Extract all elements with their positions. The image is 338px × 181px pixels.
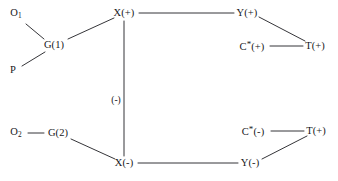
node-xminus: X(-) — [115, 158, 133, 169]
node-tplus1: T(+) — [305, 41, 325, 52]
node-p: P — [10, 65, 16, 76]
node-cminus: C*(-) — [242, 125, 265, 137]
node-sign: (+) — [312, 40, 325, 51]
edge-layer — [0, 0, 338, 181]
node-base: X — [114, 7, 122, 18]
node-base: O — [10, 7, 18, 18]
node-sign: (+) — [313, 125, 326, 136]
edge-O1-G1 — [26, 24, 44, 39]
node-sign: (-) — [248, 157, 259, 168]
node-xplus: X(+) — [114, 8, 135, 19]
edge-G1-Xplus — [68, 18, 114, 39]
edge-Yplus-Tplus1 — [259, 17, 305, 41]
edge-P-G1 — [22, 52, 45, 66]
pathway-diagram: O1PG(1)O2G(2)X(+)X(-)Y(+)Y(-)C*(+)C*(-)T… — [0, 0, 338, 181]
node-subscript: 1 — [18, 11, 22, 20]
node-o2: O2 — [10, 127, 21, 138]
node-base: Y — [241, 157, 249, 168]
node-yplus: Y(+) — [237, 8, 258, 19]
node-base: G(1) — [44, 39, 64, 50]
node-subscript: 2 — [18, 130, 22, 139]
node-o1: O1 — [10, 8, 21, 19]
node-sign: (+) — [244, 7, 257, 18]
node-sign: (-) — [122, 157, 133, 168]
node-base: G(2) — [48, 127, 68, 138]
edge-label-vertical-sign: (-) — [111, 96, 121, 106]
edge-G2-Xminus — [71, 139, 115, 159]
node-g2: G(2) — [48, 128, 68, 139]
node-tplus2: T(+) — [306, 126, 326, 137]
node-base: X — [115, 157, 123, 168]
node-cplus: C*(+) — [240, 40, 265, 52]
node-sign: (+) — [251, 41, 264, 52]
node-yminus: Y(-) — [241, 158, 259, 169]
node-g1: G(1) — [44, 40, 64, 51]
node-base: Y — [237, 7, 245, 18]
edge-Yminus-Tplus2 — [262, 136, 307, 159]
node-base: P — [10, 64, 16, 75]
node-base: O — [10, 126, 18, 137]
node-sign: (+) — [121, 7, 134, 18]
node-sign: (-) — [253, 126, 264, 137]
